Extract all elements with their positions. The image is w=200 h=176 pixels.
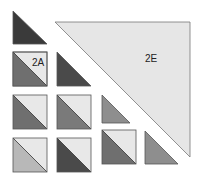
split-square-row3-col1 <box>13 95 47 129</box>
split-square-row4-col2 <box>57 138 91 172</box>
split-square-row4-col3 <box>102 130 136 164</box>
split-square-row3-col2 <box>57 95 91 129</box>
triangle-row2-col2 <box>57 52 91 86</box>
split-square-row4-col1 <box>13 138 47 172</box>
triangle-row3-col3 <box>102 95 130 123</box>
triangle-row1-col1 <box>13 11 47 44</box>
quilt-block-diagram: 2E 2A <box>0 0 200 176</box>
label-2a: 2A <box>32 57 45 68</box>
label-2e: 2E <box>145 53 158 64</box>
